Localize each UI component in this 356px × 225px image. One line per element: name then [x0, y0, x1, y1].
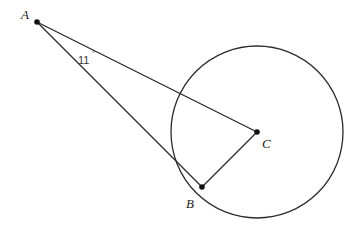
segment-a-to-c: [37, 22, 257, 132]
point-label-b: B: [186, 196, 194, 211]
geometry-canvas: A B C 11 °: [0, 0, 356, 225]
geometry-diagram: A B C 11 °: [0, 0, 356, 225]
segment-a-to-b: [37, 22, 202, 187]
vertex-dot-b: [199, 184, 205, 190]
vertex-dot-a: [34, 19, 40, 25]
angle-measure-label: 11: [78, 54, 89, 66]
point-label-a: A: [20, 7, 29, 22]
point-label-c: C: [262, 136, 271, 151]
segment-c-to-b: [202, 132, 257, 187]
degree-symbol-icon: °: [92, 50, 95, 57]
vertex-dot-c: [254, 129, 260, 135]
